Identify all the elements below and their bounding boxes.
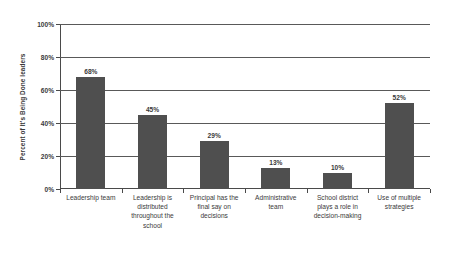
y-axis-tick	[56, 24, 60, 25]
x-axis-category-label: Leadership team	[62, 193, 119, 202]
y-axis-tick	[56, 123, 60, 124]
bar	[261, 168, 290, 189]
gridline	[60, 123, 430, 124]
bar-value-label: 52%	[393, 94, 406, 101]
x-axis-category-label: Leadership is distributed throughout the…	[124, 193, 181, 230]
x-axis-tick	[183, 189, 184, 193]
x-axis-category-label: Administrative team	[247, 193, 304, 211]
y-axis-tick	[56, 156, 60, 157]
bar-value-label: 68%	[84, 68, 97, 75]
y-axis-tick	[56, 57, 60, 58]
plot-area: 0%20%40%60%80%100% 68%45%29%13%10%52%	[60, 24, 430, 189]
bar	[76, 77, 105, 189]
gridline	[60, 90, 430, 91]
bar	[323, 173, 352, 190]
bar-value-label: 29%	[208, 132, 221, 139]
x-axis-category-label: Use of multiple strategies	[371, 193, 428, 211]
y-axis-tick-label: 80%	[41, 54, 54, 61]
bar-value-label: 13%	[269, 159, 282, 166]
bar-chart: Percent of It's Being Done leaders 0%20%…	[0, 0, 452, 254]
x-axis-tick	[122, 189, 123, 193]
bar	[138, 115, 167, 189]
x-axis-category-label: School district plays a role in decision…	[309, 193, 366, 221]
bar-value-label: 45%	[146, 106, 159, 113]
x-axis-category-label: Principal has the final say on decisions	[186, 193, 243, 221]
y-axis-tick-label: 0%	[44, 186, 54, 193]
bar-value-label: 10%	[331, 164, 344, 171]
y-axis-tick-label: 20%	[41, 153, 54, 160]
bar	[385, 103, 414, 189]
x-axis-tick	[368, 189, 369, 193]
x-axis-tick	[307, 189, 308, 193]
gridline	[60, 57, 430, 58]
gridline	[60, 24, 430, 25]
y-axis-tick-label: 100%	[37, 21, 54, 28]
gridline	[60, 156, 430, 157]
y-axis-title: Percent of It's Being Done leaders	[16, 12, 30, 202]
bar	[200, 141, 229, 189]
y-axis-line	[60, 24, 61, 189]
x-axis-tick	[245, 189, 246, 193]
x-axis-tick	[60, 189, 61, 193]
y-axis-tick-label: 60%	[41, 87, 54, 94]
y-axis-tick-label: 40%	[41, 120, 54, 127]
x-axis-tick	[430, 189, 431, 193]
y-axis-tick	[56, 90, 60, 91]
